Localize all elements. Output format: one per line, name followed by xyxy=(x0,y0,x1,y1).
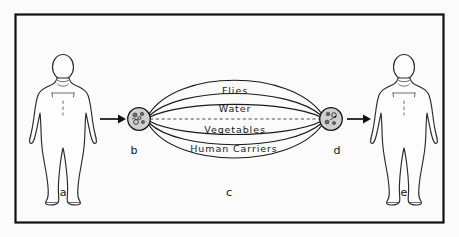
key-label-a: a xyxy=(60,186,67,199)
route-label-human-carriers: Human Carriers xyxy=(190,143,277,154)
route-label-vegetables: Vegetables xyxy=(204,124,266,135)
source-pathogen-node xyxy=(128,108,151,131)
diagram-canvas: a Flies Water Vegetables Human Car xyxy=(0,0,459,237)
key-label-d: d xyxy=(334,144,341,157)
route-label-water: Water xyxy=(219,103,252,114)
key-label-e: e xyxy=(401,186,408,199)
key-label-c: c xyxy=(226,186,232,199)
key-label-b: b xyxy=(131,144,138,157)
route-label-flies: Flies xyxy=(222,85,248,96)
destination-pathogen-node xyxy=(320,108,343,131)
